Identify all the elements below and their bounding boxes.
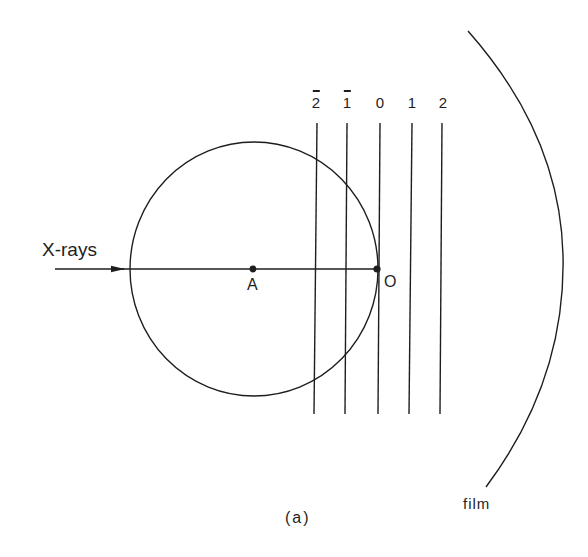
origin-point-o (373, 265, 380, 272)
overbar-negative (344, 90, 351, 92)
center-point-a (250, 266, 257, 273)
plane-index: 2 (439, 94, 447, 111)
lattice-plane-line-2 (440, 123, 442, 414)
plane-index: 1 (343, 94, 351, 111)
ewald-sphere-diagram (0, 0, 588, 557)
plane-index: 2 (312, 94, 320, 111)
plane-index: 0 (376, 94, 384, 111)
incident-beam-label: X-rays (42, 240, 97, 259)
overbar-negative (313, 90, 320, 92)
center-label: A (247, 277, 258, 293)
lattice-plane-line-neg1 (345, 123, 347, 414)
film-arc (468, 31, 563, 487)
plane-label-neg1: 1 (343, 90, 351, 110)
origin-label: O (384, 274, 396, 290)
plane-index: 1 (408, 94, 416, 111)
plane-label-neg2: 2 (312, 90, 320, 110)
plane-label-0: 0 (376, 90, 384, 110)
figure-caption: (a) (285, 510, 311, 526)
lattice-plane-line-1 (409, 123, 412, 414)
plane-label-2: 2 (439, 90, 447, 110)
plane-label-1: 1 (408, 90, 416, 110)
film-label: film (463, 496, 490, 511)
